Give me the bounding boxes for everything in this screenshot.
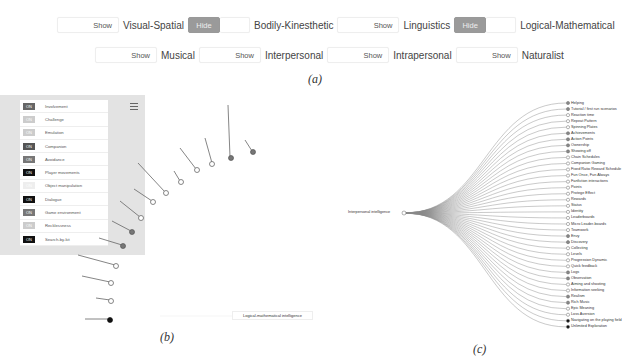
leaf-node[interactable]: Helping — [571, 101, 584, 105]
leaf-node[interactable]: Status — [571, 203, 582, 207]
root-label-logical-mathematical: Logical-mathematical intelligence — [232, 311, 313, 320]
leaf-node[interactable]: Aiming and shooting — [571, 282, 605, 286]
leaf-node[interactable]: Protege Effect — [571, 191, 595, 195]
leaf-node[interactable]: Companion Gaming — [571, 161, 605, 165]
leaf-node[interactable]: Tutorial / first run scenarios — [571, 107, 617, 111]
leaf-node[interactable]: Achievements — [571, 131, 595, 135]
leaf-node[interactable]: Discovery — [571, 240, 588, 244]
caption-c: (c) — [473, 342, 486, 357]
leaf-node[interactable]: Unlimited Exploration — [571, 324, 607, 328]
leaf-node[interactable]: Teamwork — [571, 228, 588, 232]
leaf-node[interactable]: Fixed Ratio Reward Schedule — [571, 167, 621, 171]
leaf-node[interactable]: Observation — [571, 276, 591, 280]
leaf-node[interactable]: Action Points — [571, 137, 593, 141]
leaf-node[interactable]: Progression Dynamic — [571, 258, 607, 262]
leaf-node[interactable]: Spinning Plates — [571, 125, 597, 129]
leaf-node[interactable]: Fanfiction interactions — [571, 179, 608, 183]
tree-edges — [0, 0, 630, 362]
leaf-node[interactable]: Logs — [571, 270, 579, 274]
leaf-node[interactable]: Reaction time — [571, 113, 594, 117]
leaf-node[interactable]: Rich Music — [571, 300, 590, 304]
leaf-node[interactable]: Epic Meaning — [571, 306, 594, 310]
leaf-node[interactable]: Identity — [571, 209, 583, 213]
caption-b: (b) — [160, 330, 174, 345]
leaf-node[interactable]: Levels — [571, 252, 582, 256]
leaf-node[interactable]: Information seeking — [571, 288, 604, 292]
leaf-node[interactable]: Leaderboards — [571, 215, 594, 219]
leaf-node[interactable]: Rewards — [571, 197, 586, 201]
leaf-node[interactable]: Repeat Pattern — [571, 119, 597, 123]
leaf-node[interactable]: Realism — [571, 294, 585, 298]
leaf-node[interactable]: Fun Once, Fun Always — [571, 173, 609, 177]
leaf-node[interactable]: Collecting — [571, 246, 588, 250]
leaf-node[interactable]: Envy — [571, 234, 579, 238]
root-node-interpersonal: Interpersonal intelligence — [348, 210, 390, 214]
leaf-node[interactable]: Ownership — [571, 143, 589, 147]
leaf-node[interactable]: Quick feedback — [571, 264, 597, 268]
leaf-node[interactable]: Chain Schedules — [571, 155, 600, 159]
leaf-node[interactable]: Showing off — [571, 149, 591, 153]
leaf-node[interactable]: Micro Leader-boards — [571, 222, 606, 226]
leaf-node[interactable]: Navigating on the playing field — [571, 318, 622, 322]
leaf-node[interactable]: Points — [571, 185, 582, 189]
leaf-node[interactable]: Loss Aversion — [571, 312, 595, 316]
